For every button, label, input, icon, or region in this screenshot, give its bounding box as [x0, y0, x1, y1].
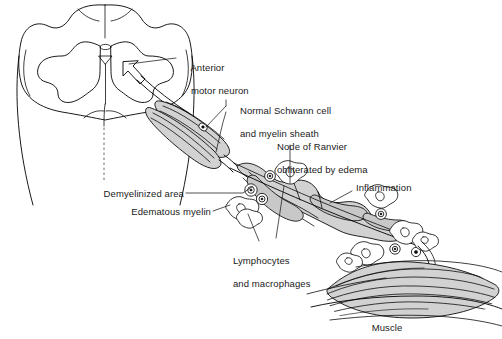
- label-edematous-myelin: Edematous myelin: [105, 206, 211, 218]
- anterior-horn-arrow-icon: [123, 61, 145, 84]
- label-muscle: Muscle: [352, 322, 422, 334]
- label-lymphocytes-line2: and macrophages: [233, 278, 311, 289]
- label-node-of-ranvier-line2: obliterated by edema: [277, 164, 368, 175]
- label-demyelinized-area: Demyelinized area: [80, 188, 184, 200]
- muscle-bundle: [307, 261, 502, 326]
- myelinated-nerve-segments: [146, 101, 238, 172]
- label-node-of-ranvier-line1: Node of Ranvier: [277, 141, 347, 152]
- label-normal-schwann-cell-line1: Normal Schwann cell: [240, 105, 331, 116]
- label-lymphocytes-macrophages: Lymphocytes and macrophages: [222, 243, 311, 301]
- label-inflammation: Inflammation: [356, 182, 412, 194]
- label-anterior-motor-neuron-line1: Anterior: [190, 62, 224, 73]
- guillain-barre-nerve-diagram: .ln{fill:none;stroke:#000;stroke-width:0…: [0, 0, 502, 339]
- label-node-of-ranvier: Node of Ranvier obliterated by edema: [266, 129, 368, 187]
- label-lymphocytes-line1: Lymphocytes: [233, 255, 290, 266]
